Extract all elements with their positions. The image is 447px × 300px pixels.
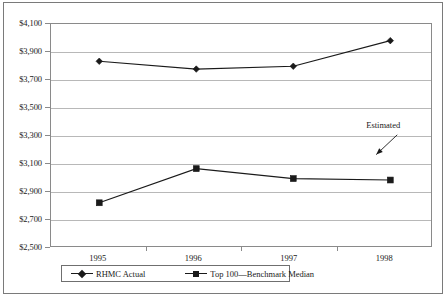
x-tick-mark [337,247,338,251]
x-tick-mark [146,247,147,251]
y-tick-label: $2,900 [8,186,42,196]
gridline [51,220,431,221]
legend-item-benchmark-median[interactable]: Top 100—Benchmark Median [185,269,314,279]
gridline [51,52,431,53]
chart-legend[interactable]: RHMC Actual Top 100—Benchmark Median [61,265,290,282]
estimated-annotation-label: Estimated [366,120,400,130]
square-marker-icon [185,269,207,278]
legend-item-rhmc-actual[interactable]: RHMC Actual [71,269,145,279]
y-tick-label: $3,900 [8,46,42,56]
diamond-marker-icon [71,269,93,278]
plot-area [50,23,432,247]
y-tick-label: $4,100 [8,18,42,28]
y-tick-label: $3,100 [8,158,42,168]
gridline [51,108,431,109]
gridline [51,136,431,137]
x-tick-label: 1995 [89,253,106,263]
gridline [51,164,431,165]
y-tick-label: $3,700 [8,74,42,84]
y-tick-label: $3,300 [8,130,42,140]
legend-label-benchmark-median: Top 100—Benchmark Median [210,269,314,279]
x-tick-label: 1998 [376,253,393,263]
y-tick-label: $2,500 [8,242,42,252]
gridline [51,80,431,81]
x-tick-label: 1996 [185,253,202,263]
chart-frame: $4,100$3,900$3,700$3,500$3,300$3,100$2,9… [3,2,443,294]
x-tick-mark [241,247,242,251]
y-tick-label: $3,500 [8,102,42,112]
y-tick-label: $2,700 [8,214,42,224]
gridline [51,192,431,193]
legend-label-rhmc-actual: RHMC Actual [96,269,145,279]
x-tick-label: 1997 [280,253,297,263]
y-tick-mark [45,247,50,248]
